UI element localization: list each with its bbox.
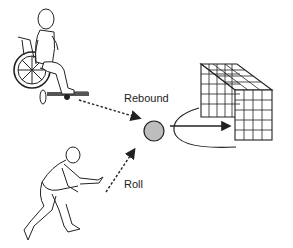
goal-net-icon — [201, 64, 272, 140]
rolling-player-icon — [24, 147, 103, 240]
diagram-canvas: Rebound Roll — [0, 0, 293, 248]
ball-icon — [144, 121, 164, 141]
diagram-drawing — [0, 0, 293, 248]
wheelchair-player-icon — [14, 9, 89, 104]
roll-label: Roll — [124, 178, 143, 190]
rebound-label: Rebound — [124, 92, 169, 104]
